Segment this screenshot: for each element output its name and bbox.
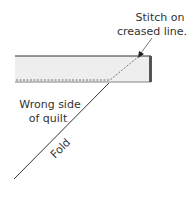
callout-arrow-line [141, 38, 152, 53]
wrong-side-label-1: Wrong side [19, 98, 81, 111]
binding-strip [15, 56, 151, 82]
stitch-label-2: creased line. [117, 25, 187, 38]
stitch-label-1: Stitch on [136, 11, 185, 24]
strip-right-edge [149, 56, 152, 82]
fold-label: Fold [48, 136, 73, 161]
binding-diagram: Stitch on creased line. Wrong side of qu… [0, 0, 196, 198]
wrong-side-label-2: of quilt [29, 112, 68, 125]
